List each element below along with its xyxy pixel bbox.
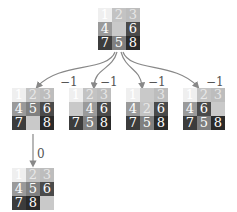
tile-6: 6 [40, 102, 54, 116]
tile-6: 6 [197, 102, 211, 116]
tile-1: 1 [126, 88, 140, 102]
tile-8: 8 [26, 196, 40, 210]
tile-1: 1 [12, 88, 26, 102]
edge-cost-label: −1 [206, 76, 224, 88]
tile-5: 5 [112, 36, 126, 50]
tile-8: 8 [97, 116, 111, 130]
child-board-1: 12345678 [12, 88, 54, 130]
tile-7: 7 [12, 196, 26, 210]
child-board-3: 13426758 [126, 88, 168, 130]
root-board: 12346758 [98, 8, 140, 50]
tile-2: 2 [197, 88, 211, 102]
tile-3: 3 [40, 168, 54, 182]
tile-1: 1 [69, 88, 83, 102]
tile-8: 8 [211, 116, 225, 130]
blank-tile [211, 102, 225, 116]
tile-5: 5 [140, 116, 154, 130]
tile-7: 7 [12, 116, 26, 130]
tile-7: 7 [183, 116, 197, 130]
tile-3: 3 [154, 88, 168, 102]
tile-1: 1 [98, 8, 112, 22]
tile-6: 6 [126, 22, 140, 36]
tile-2: 2 [26, 88, 40, 102]
edge-arrow-3 [121, 52, 142, 86]
tile-6: 6 [40, 182, 54, 196]
tile-4: 4 [12, 182, 26, 196]
blank-tile [112, 22, 126, 36]
blank-tile [40, 196, 54, 210]
tile-6: 6 [154, 102, 168, 116]
tile-5: 5 [26, 182, 40, 196]
tile-8: 8 [40, 116, 54, 130]
child-board-4: 12346758 [183, 88, 225, 130]
edge-cost-label: −1 [100, 76, 118, 88]
tile-7: 7 [98, 36, 112, 50]
tile-6: 6 [97, 102, 111, 116]
tile-4: 4 [126, 102, 140, 116]
tile-3: 3 [97, 88, 111, 102]
blank-tile [69, 102, 83, 116]
tile-3: 3 [211, 88, 225, 102]
tile-2: 2 [83, 88, 97, 102]
tile-3: 3 [126, 8, 140, 22]
tile-1: 1 [183, 88, 197, 102]
child-board-2: 12346758 [69, 88, 111, 130]
tile-4: 4 [183, 102, 197, 116]
tile-4: 4 [83, 102, 97, 116]
tile-2: 2 [140, 102, 154, 116]
tile-5: 5 [83, 116, 97, 130]
grandchild-board: 12345678 [12, 168, 54, 210]
edge-cost-label: 0 [37, 148, 45, 160]
blank-tile [26, 116, 40, 130]
tile-3: 3 [40, 88, 54, 102]
tile-2: 2 [26, 168, 40, 182]
tile-5: 5 [26, 102, 40, 116]
tile-7: 7 [126, 116, 140, 130]
tile-1: 1 [12, 168, 26, 182]
tile-2: 2 [112, 8, 126, 22]
tile-7: 7 [69, 116, 83, 130]
tile-4: 4 [12, 102, 26, 116]
edge-cost-label: −1 [148, 76, 166, 88]
tile-8: 8 [126, 36, 140, 50]
blank-tile [140, 88, 154, 102]
tile-5: 5 [197, 116, 211, 130]
tile-8: 8 [154, 116, 168, 130]
tile-4: 4 [98, 22, 112, 36]
